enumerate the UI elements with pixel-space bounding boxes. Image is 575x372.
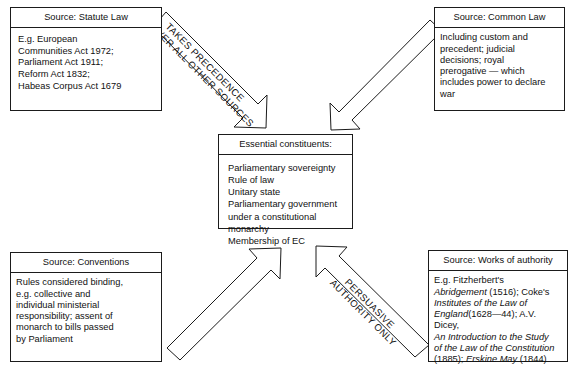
diagram-canvas: TAKES PRECEDENCE OVER ALL OTHER SOURCES …: [0, 0, 575, 372]
common-law-body: Including custom and precedent; judicial…: [435, 28, 564, 104]
authority-line-7-pre: (1885);: [434, 354, 466, 364]
works-of-authority-header: Source: Works of authority: [429, 251, 567, 271]
authority-erskine-may: Erskine May: [466, 354, 517, 364]
source-box-conventions: Source: Conventions Rules considered bin…: [10, 252, 162, 362]
authority-constitution: of the Law of the Constitution: [434, 343, 554, 353]
authority-line-1: E.g. Fitzherbert's: [434, 275, 504, 285]
authority-england: England: [434, 309, 468, 319]
statute-law-header: Source: Statute Law: [11, 8, 161, 28]
statute-law-body: E.g. European Communities Act 1972; Parl…: [11, 28, 161, 97]
arrow-label-persuasive-authority: PERSUASIVE AUTHORITY ONLY: [328, 269, 407, 348]
essential-constituents-header: Essential constituents:: [219, 135, 352, 155]
essential-constituents-box: Essential constituents: Parliamentary so…: [218, 134, 353, 229]
conventions-header: Source: Conventions: [11, 253, 161, 273]
source-box-works-of-authority: Source: Works of authority E.g. Fitzherb…: [428, 250, 568, 362]
works-of-authority-body: E.g. Fitzherbert's Abridgement (1516); C…: [429, 271, 567, 369]
svg-text:TAKES PRECEDENCE: TAKES PRECEDENCE: [164, 21, 247, 104]
authority-line-2-rest: (1516); Coke's: [487, 287, 550, 297]
arrow-conventions-to-center: [167, 248, 281, 360]
authority-line-7-post: (1844): [517, 354, 546, 364]
authority-abridgement: Abridgement: [434, 287, 487, 297]
authority-institutes: Institutes of the Law of: [434, 298, 527, 308]
source-box-common-law: Source: Common Law Including custom and …: [434, 7, 565, 111]
arrow-label-takes-precedence: TAKES PRECEDENCE OVER ALL OTHER SOURCES: [149, 14, 264, 129]
essential-constituents-body: Parliamentary sovereignty Rule of law Un…: [219, 155, 352, 253]
authority-introduction: An Introduction to the Study: [434, 332, 549, 342]
arrow-common-to-center: [330, 20, 442, 130]
source-box-statute-law: Source: Statute Law E.g. European Commun…: [10, 7, 162, 111]
conventions-body: Rules considered binding, e.g. collectiv…: [11, 273, 161, 349]
svg-text:OVER ALL OTHER SOURCES: OVER ALL OTHER SOURCES: [149, 21, 257, 129]
common-law-header: Source: Common Law: [435, 8, 564, 28]
